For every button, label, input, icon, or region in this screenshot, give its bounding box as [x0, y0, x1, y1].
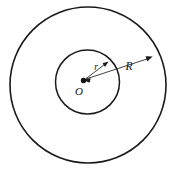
center-point-dot [81, 78, 86, 83]
inner-circle [56, 50, 120, 114]
outer-radius-label: R [124, 60, 132, 72]
center-point-label: O [75, 85, 83, 97]
inner-radius-label: r [94, 62, 98, 72]
concentric-circles-diagram: O r R [0, 0, 176, 171]
outer-circle [10, 7, 166, 163]
outer-radius-arrowhead-icon [146, 56, 153, 61]
inner-radius-arrowhead-icon [103, 61, 109, 67]
figure-container: O r R [0, 0, 176, 171]
